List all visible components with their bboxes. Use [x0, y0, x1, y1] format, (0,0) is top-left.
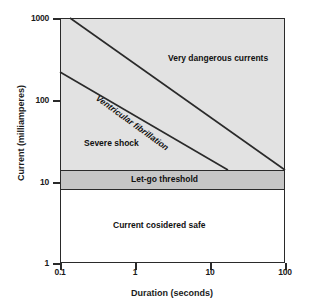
- region-label-let-go-threshold: Let-go threshold: [131, 174, 198, 184]
- y-tick-10: [53, 182, 60, 184]
- x-axis-title: Duration (seconds): [92, 288, 252, 298]
- y-tick-1000: [53, 18, 60, 20]
- x-ticklabel-10: 10: [190, 267, 230, 277]
- y-tick-1: [53, 263, 60, 265]
- x-ticklabel-0.1: 0.1: [40, 267, 80, 277]
- region-label-very-dangerous-currents: Very dangerous currents: [168, 53, 268, 63]
- y-ticklabel-1000: 1000: [15, 13, 49, 23]
- x-ticklabel-100: 100: [265, 267, 305, 277]
- chart-container: 1000 100 10 1 0.1 1 10 100 Current (mill…: [0, 0, 314, 306]
- y-tick-100: [53, 100, 60, 102]
- x-ticklabel-1: 1: [115, 267, 155, 277]
- region-label-current-considered-safe: Current cosidered safe: [113, 220, 206, 230]
- region-label-severe-shock: Severe shock: [84, 138, 139, 148]
- y-axis-title: Current (milliamperes): [16, 68, 26, 198]
